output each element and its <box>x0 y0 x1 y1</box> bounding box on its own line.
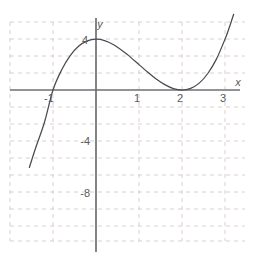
chart-screenshot: -1 1 2 3 4 -4 -8 x y <box>0 0 255 262</box>
xtick-label--1: -1 <box>44 92 54 104</box>
vertical-gridlines <box>10 22 225 241</box>
xtick-label-1: 1 <box>134 92 140 104</box>
ytick-label--4: -4 <box>80 135 90 147</box>
ytick-label-4: 4 <box>82 34 88 46</box>
xtick-label-2: 2 <box>177 92 183 104</box>
ytick-label--8: -8 <box>80 187 90 199</box>
curve-cubic <box>29 14 233 167</box>
x-axis-label: x <box>234 76 241 88</box>
y-axis-label: y <box>96 18 104 30</box>
xtick-label-3: 3 <box>220 92 226 104</box>
function-plot: -1 1 2 3 4 -4 -8 x y <box>0 0 255 262</box>
